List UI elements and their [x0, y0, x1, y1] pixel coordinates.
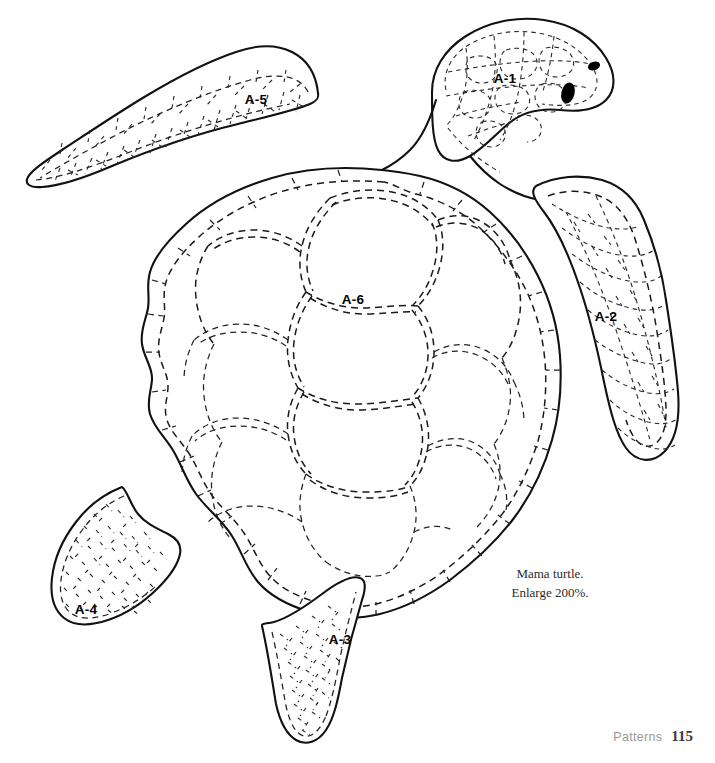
- pattern-page: A-5: [0, 0, 715, 763]
- a5-outline: [27, 46, 318, 187]
- caption-line-1: Mama turtle.: [470, 565, 630, 584]
- piece-a3-rear-bottom-flipper: A-3: [262, 577, 365, 742]
- a4-outline: [52, 487, 181, 624]
- neck-left-edge: [382, 100, 436, 170]
- label-a1: A-1: [494, 71, 517, 86]
- neck-right-edge: [470, 156, 540, 200]
- turtle-carapace: A-6: [142, 168, 561, 618]
- label-a5: A-5: [245, 92, 268, 107]
- piece-a4-left-rear-flipper: A-4: [52, 487, 181, 624]
- footer-section-label: Patterns: [613, 730, 662, 744]
- piece-a1-head: A-1: [432, 19, 614, 161]
- footer-page-number: 115: [671, 728, 693, 745]
- label-a6: A-6: [342, 292, 365, 307]
- label-a4: A-4: [75, 602, 98, 617]
- label-a2: A-2: [595, 309, 617, 324]
- a1-head-outline: [432, 19, 614, 161]
- caption-line-2: Enlarge 200%.: [470, 584, 630, 603]
- label-a3: A-3: [329, 632, 352, 647]
- a3-outline: [262, 577, 365, 742]
- page-footer: Patterns 115: [613, 728, 693, 745]
- pattern-caption: Mama turtle. Enlarge 200%.: [470, 565, 630, 603]
- turtle-pattern-drawing: A-5: [0, 0, 715, 763]
- piece-a5-left-front-flipper: A-5: [27, 46, 318, 187]
